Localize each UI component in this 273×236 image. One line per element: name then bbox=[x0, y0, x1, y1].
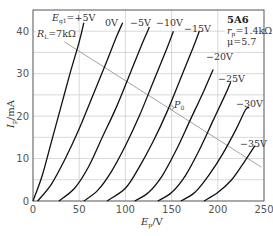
x-tick-label: 150 bbox=[162, 204, 181, 215]
curve--30V bbox=[181, 107, 249, 201]
x-tick-label: 50 bbox=[73, 204, 86, 215]
curve-label-minus25v: −25V bbox=[218, 73, 245, 84]
curve-label-minus20v: −20V bbox=[206, 51, 233, 62]
tube-title: 5A6 bbox=[227, 14, 249, 25]
plate-characteristics-chart: 050100150200250 010203040 Eg1=+5V 0V −5V… bbox=[0, 0, 273, 236]
x-tick-label: 200 bbox=[208, 204, 227, 215]
curve--5V bbox=[59, 27, 150, 201]
curve-label-minus10v: −10V bbox=[156, 17, 183, 28]
load-line-label: RL=7kΩ bbox=[36, 28, 76, 40]
y-tick-label: 20 bbox=[16, 111, 29, 122]
y-tick-label: 10 bbox=[16, 153, 29, 164]
operating-point-label: P0 bbox=[173, 99, 184, 111]
curve-label-+5v: Eg1=+5V bbox=[51, 12, 96, 25]
mu-annotation: μ=5.7 bbox=[227, 36, 256, 47]
curve-label-0v: 0V bbox=[105, 17, 118, 28]
x-axis-label: Ep/V bbox=[140, 216, 164, 229]
curves bbox=[33, 23, 255, 201]
curve-label-minus15v: −15V bbox=[184, 23, 211, 34]
x-tick-label: 0 bbox=[30, 204, 36, 215]
curve-label-minus35v: −35V bbox=[240, 138, 267, 149]
x-tick-label: 250 bbox=[254, 204, 273, 215]
curve--25V bbox=[158, 82, 231, 201]
curve--35V bbox=[204, 146, 255, 201]
y-tick-label: 40 bbox=[16, 26, 29, 37]
operating-point-marker bbox=[170, 106, 174, 110]
curve-label-minus5v: −5V bbox=[130, 17, 151, 28]
x-tick-label: 100 bbox=[116, 204, 135, 215]
curve-label-minus30v: −30V bbox=[236, 98, 263, 109]
curve--20V bbox=[135, 69, 214, 201]
x-axis-ticks: 050100150200250 bbox=[30, 204, 273, 215]
y-tick-label: 0 bbox=[23, 196, 29, 207]
y-tick-label: 30 bbox=[16, 68, 29, 79]
y-axis-ticks: 010203040 bbox=[16, 26, 29, 207]
